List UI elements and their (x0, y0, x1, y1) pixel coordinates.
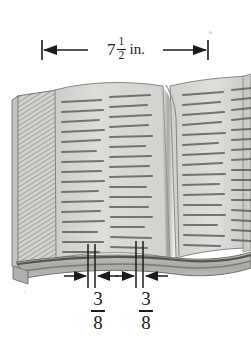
scan-speck (209, 31, 212, 34)
book-dimension-figure: 712in. 3 8 3 8 (0, 0, 251, 358)
right-margin-numerator: 3 (141, 289, 151, 309)
bottom-arrowhead-l2 (97, 271, 110, 281)
book-width-label: 712in. (84, 36, 168, 62)
right-margin-label: 3 8 (131, 289, 161, 333)
page-edge-stack (17, 90, 57, 268)
width-fraction-denominator: 2 (119, 50, 125, 62)
bottom-arrowhead-r1 (122, 271, 135, 281)
left-margin-denominator: 8 (93, 313, 103, 333)
top-dim-arrowhead-left (43, 45, 57, 55)
bottom-arrowhead-r2 (145, 271, 158, 281)
scan-speck (23, 291, 26, 293)
width-units: in. (126, 42, 145, 57)
width-fraction: 12 (117, 36, 126, 61)
right-margin-denominator: 8 (141, 313, 151, 333)
left-cover-edge (12, 96, 18, 268)
left-margin-label: 3 8 (83, 289, 113, 333)
bottom-arrowhead-l1 (74, 271, 87, 281)
right-cover-edge (243, 74, 251, 252)
width-fraction-numerator: 1 (119, 36, 125, 48)
left-margin-numerator: 3 (93, 289, 103, 309)
width-whole-number: 7 (107, 41, 117, 58)
top-dim-arrowhead-right (193, 45, 207, 55)
